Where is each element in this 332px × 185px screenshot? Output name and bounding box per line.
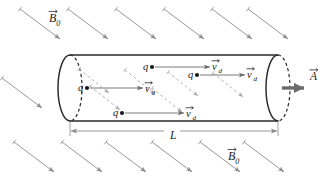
b-field-label-top: B0 bbox=[49, 10, 61, 28]
b-field-line-tail-tick bbox=[114, 7, 117, 12]
b-field-line bbox=[62, 142, 102, 172]
drift-velocity-label-symbol: v bbox=[186, 108, 191, 119]
internal-b-field-line bbox=[79, 69, 109, 93]
b-field-line bbox=[116, 9, 156, 39]
b-field-label-bottom-subscript: 0 bbox=[235, 157, 239, 166]
figure-canvas: qvdqvdqvdqvd A L B0B0 bbox=[0, 0, 332, 185]
drift-velocity-label-subscript: d bbox=[253, 75, 257, 83]
b-field-line-tail-tick bbox=[18, 7, 21, 12]
drift-velocity-label: vd bbox=[186, 106, 197, 122]
b-field-line-tail-tick bbox=[0, 76, 3, 81]
cylinder-left-cap-front-arc bbox=[58, 55, 70, 121]
b-field-line bbox=[244, 142, 284, 172]
drift-velocity-label-subscript: d bbox=[192, 114, 196, 122]
charge-carriers-group: qvdqvdqvdqvd bbox=[78, 59, 257, 122]
charge-label: q bbox=[188, 69, 193, 80]
charge-label: q bbox=[113, 107, 118, 118]
internal-b-field-line bbox=[168, 72, 198, 96]
length-dimension-group: L bbox=[70, 122, 278, 141]
b-field-line bbox=[164, 9, 204, 39]
b-field-line-tail-tick bbox=[246, 7, 249, 12]
b-field-line bbox=[68, 9, 108, 39]
charge-label: q bbox=[143, 61, 148, 72]
b-field-line-tail-tick bbox=[66, 7, 69, 12]
internal-b-field-line bbox=[213, 73, 243, 97]
b-field-line-tail-tick bbox=[198, 140, 201, 145]
b-field-line bbox=[106, 142, 146, 172]
cylinder-right-cap-near-arc bbox=[266, 55, 278, 121]
b-field-line bbox=[14, 142, 54, 172]
length-label: L bbox=[169, 129, 176, 141]
b-field-line-tail-tick bbox=[242, 140, 245, 145]
charge-2: qvd bbox=[143, 59, 222, 75]
drift-velocity-label-symbol: v bbox=[212, 61, 217, 72]
b-field-line bbox=[152, 142, 192, 172]
charge-dot bbox=[150, 65, 154, 69]
b-field-line bbox=[248, 9, 288, 39]
charge-label: q bbox=[78, 82, 83, 93]
area-vector-group: A bbox=[282, 68, 318, 88]
drift-velocity-label-subscript: d bbox=[151, 89, 155, 97]
b-field-line-tail-tick bbox=[150, 140, 153, 145]
charge-4: qvd bbox=[113, 106, 196, 122]
b-field-line-tail-tick bbox=[162, 7, 165, 12]
b-field-label-top-subscript: 0 bbox=[56, 19, 60, 28]
drift-velocity-label-subscript: d bbox=[218, 67, 222, 75]
b-field-line-tail-tick bbox=[60, 140, 63, 145]
charge-dot bbox=[195, 73, 199, 77]
area-vector-label-symbol: A bbox=[309, 70, 318, 82]
b-field-line bbox=[212, 9, 252, 39]
drift-velocity-label-symbol: v bbox=[145, 83, 150, 94]
drift-velocity-label-symbol: v bbox=[247, 69, 252, 80]
b-field-line-tail-tick bbox=[210, 7, 213, 12]
b-field-line bbox=[2, 78, 42, 108]
internal-b-field-line bbox=[152, 88, 182, 112]
area-vector-label: A bbox=[309, 68, 318, 82]
b-field-line-tail-tick bbox=[104, 140, 107, 145]
charge-1: qvd bbox=[78, 81, 155, 97]
physics-figure: qvdqvdqvdqvd A L B0B0 bbox=[0, 0, 332, 185]
charge-dot bbox=[120, 111, 124, 115]
length-label-symbol: L bbox=[169, 129, 176, 141]
drift-velocity-label: vd bbox=[247, 67, 258, 83]
b-field-label-bottom: B0 bbox=[228, 148, 240, 166]
charge-dot bbox=[85, 86, 89, 90]
drift-velocity-label: vd bbox=[145, 81, 156, 97]
b-field-line-tail-tick bbox=[12, 140, 15, 145]
